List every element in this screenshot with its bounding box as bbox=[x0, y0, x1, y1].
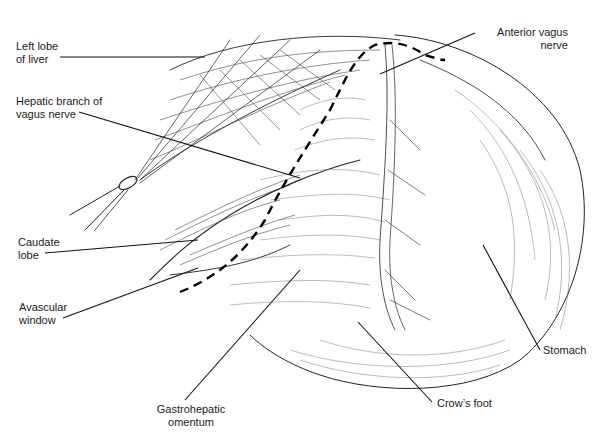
label-caudate-lobe: Caudate lobe bbox=[18, 236, 60, 262]
gastrohepatic-omentum bbox=[230, 98, 390, 308]
leader-crows-foot bbox=[358, 322, 432, 402]
anatomy-illustration bbox=[0, 0, 595, 441]
illustration-drawing bbox=[0, 0, 595, 441]
caudate-lobe bbox=[150, 160, 360, 280]
label-gastrohepatic-omentum: Gastrohepatic omentum bbox=[146, 403, 236, 429]
liver-lobe bbox=[140, 36, 400, 180]
leader-hepatic-branch bbox=[79, 112, 300, 178]
leader-stomach bbox=[483, 245, 540, 350]
label-anterior-vagus-nerve: Anterior vagus nerve bbox=[478, 26, 568, 52]
label-crows-foot: Crow’s foot bbox=[437, 397, 492, 410]
leader-omentum bbox=[185, 270, 300, 400]
retractor bbox=[70, 35, 320, 230]
label-hepatic-branch-of-vagus-nerve: Hepatic branch of vagus nerve bbox=[16, 95, 102, 121]
leader-avascular bbox=[63, 268, 198, 318]
leader-caudate bbox=[45, 240, 198, 253]
leader-lines bbox=[45, 33, 540, 402]
label-stomach: Stomach bbox=[543, 344, 586, 357]
label-left-lobe-of-liver: Left lobe of liver bbox=[16, 40, 58, 66]
anterior-vagus-nerve bbox=[380, 45, 430, 330]
label-avascular-window: Avascular window bbox=[19, 301, 67, 327]
